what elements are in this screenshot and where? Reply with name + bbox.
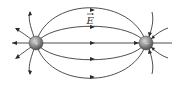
arrow-icon — [90, 41, 95, 45]
positive-charge: + — [29, 36, 43, 50]
arrow-icon — [134, 41, 139, 45]
plus-sign: + — [34, 40, 38, 46]
field-label-text: E — [86, 15, 95, 26]
negative-charge: − — [139, 36, 153, 50]
field-label: E — [86, 13, 95, 26]
field-lines-connecting-bottom — [38, 47, 144, 79]
minus-sign: − — [144, 40, 148, 46]
dipole-field-diagram: + − E — [0, 0, 183, 87]
arrow-icon — [12, 41, 17, 45]
